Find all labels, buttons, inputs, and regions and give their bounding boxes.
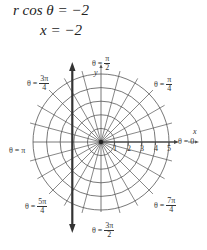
tick-1: 1 bbox=[113, 144, 117, 153]
line-up-arrow-icon bbox=[69, 62, 75, 71]
radial-line bbox=[101, 142, 172, 161]
radial-line bbox=[82, 71, 101, 142]
angle-label-7pi-over-4: θ = 7π4 bbox=[154, 197, 176, 214]
angle-label-3pi-over-4: θ = 3π4 bbox=[27, 75, 49, 92]
radial-line bbox=[30, 123, 101, 142]
angle-label-pi: θ = π bbox=[9, 146, 25, 155]
origin-point bbox=[99, 140, 103, 144]
line-down-arrow-icon bbox=[69, 224, 75, 233]
x-axis-label: x bbox=[193, 127, 197, 136]
angle-label-pi-over-4: θ = π4 bbox=[154, 76, 172, 93]
tick-2: 2 bbox=[127, 144, 131, 153]
radial-line bbox=[82, 142, 101, 213]
tick-3: 3 bbox=[140, 144, 144, 153]
radial-line bbox=[101, 71, 120, 142]
angle-label-pi-over-2: θ = π2 bbox=[92, 55, 110, 72]
tick-4: 4 bbox=[154, 144, 158, 153]
x-axis-end-arrow-icon bbox=[195, 140, 199, 143]
angle-label-3pi-over-2: θ = 3π2 bbox=[92, 222, 114, 239]
radial-line bbox=[101, 123, 172, 142]
radial-line bbox=[101, 142, 120, 213]
angle-label-0: θ = 0 bbox=[178, 137, 194, 146]
angle-label-5pi-over-4: θ = 5π4 bbox=[25, 198, 47, 215]
radial-line bbox=[30, 142, 101, 161]
tick-5: 5 bbox=[167, 144, 171, 153]
